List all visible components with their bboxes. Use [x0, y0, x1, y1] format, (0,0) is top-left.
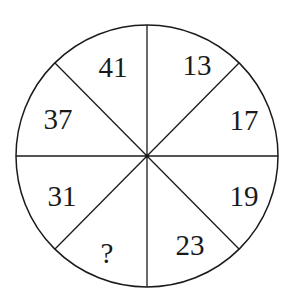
sector-value: 41 [99, 51, 128, 83]
sector-value: 31 [48, 180, 77, 212]
sector-value: 19 [230, 180, 259, 212]
sector-value: 17 [230, 104, 259, 136]
sector-value: 23 [176, 229, 205, 261]
sector-value: 37 [44, 103, 73, 135]
sector-value: 13 [183, 49, 212, 81]
number-wheel: 41 13 17 19 23 ? 31 37 [0, 0, 292, 306]
center-dot [145, 154, 149, 158]
unknown-value: ? [101, 237, 114, 269]
